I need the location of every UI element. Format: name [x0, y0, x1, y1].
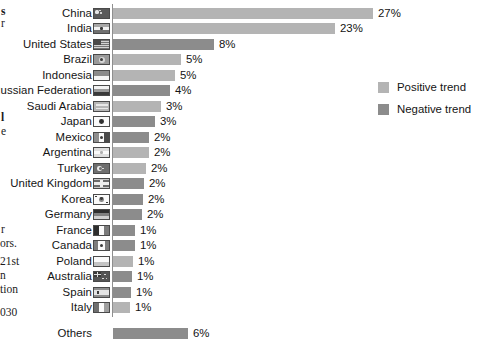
bar-category-label: Others	[58, 326, 92, 341]
bar-category-label: Poland	[56, 254, 92, 269]
bar-positive	[113, 8, 373, 19]
flag-china-icon	[93, 8, 110, 19]
bar-value-label: 1%	[140, 238, 156, 253]
bar-value-label: 8%	[219, 37, 235, 52]
bar-category-label: France	[56, 223, 92, 238]
flag-canada-icon	[93, 240, 110, 251]
flag-spain-icon	[93, 287, 110, 298]
flag-brazil-icon	[93, 54, 110, 65]
bar-value-label: 2%	[154, 130, 170, 145]
chart-row: Turkey2%	[0, 161, 491, 176]
chart-row: China27%	[0, 6, 491, 21]
bar-value-label: 27%	[378, 6, 401, 21]
legend-item: Negative trend	[378, 101, 488, 121]
bar-positive	[113, 54, 181, 65]
legend-label: Negative trend	[397, 101, 471, 118]
bar-category-label: Russian Federation	[0, 83, 92, 98]
bar-negative	[113, 328, 188, 339]
bar-value-label: 23%	[340, 21, 363, 36]
bar-value-label: 1%	[135, 300, 151, 315]
flag-poland-icon	[93, 256, 110, 267]
bar-negative	[113, 225, 135, 236]
bar-positive	[113, 101, 161, 112]
chart-row: Argentina2%	[0, 145, 491, 160]
bar-category-label: Spain	[63, 285, 92, 300]
chart-row: Spain1%	[0, 285, 491, 300]
flag-turkey-icon	[93, 163, 110, 174]
flag-australia-icon	[93, 271, 110, 282]
bar-value-label: 3%	[160, 114, 176, 129]
chart-legend: Positive trendNegative trend	[378, 79, 488, 123]
bar-value-label: 2%	[147, 207, 163, 222]
bar-category-label: Canada	[52, 238, 92, 253]
flag-japan-icon	[93, 116, 110, 127]
bar-value-label: 2%	[149, 176, 165, 191]
bar-negative	[113, 287, 131, 298]
bar-category-label: India	[67, 21, 92, 36]
flag-saudi-arabia-icon	[93, 101, 110, 112]
bar-negative	[113, 132, 149, 143]
flag-argentina-icon	[93, 147, 110, 158]
bar-positive	[113, 23, 335, 34]
bar-value-label: 1%	[140, 223, 156, 238]
bar-negative	[113, 271, 132, 282]
flag-italy-icon	[93, 302, 110, 313]
chart-row: Korea2%	[0, 192, 491, 207]
bar-positive	[113, 70, 175, 81]
chart-row: Germany2%	[0, 207, 491, 222]
bar-negative	[113, 116, 155, 127]
bar-category-label: China	[62, 6, 92, 21]
bar-category-label: United Kingdom	[10, 176, 92, 191]
bar-value-label: 5%	[186, 52, 202, 67]
bar-category-label: United States	[23, 37, 92, 52]
bar-positive	[113, 163, 146, 174]
bar-negative	[113, 194, 143, 205]
bar-value-label: 4%	[175, 83, 191, 98]
bar-category-label: Australia	[47, 269, 92, 284]
chart-row: Australia1%	[0, 269, 491, 284]
bar-category-label: Argentina	[43, 145, 92, 160]
flag-germany-icon	[93, 209, 110, 220]
bar-negative	[113, 85, 170, 96]
chart-row: Italy1%	[0, 300, 491, 315]
bar-category-label: Germany	[45, 207, 92, 222]
bar-value-label: 1%	[137, 269, 153, 284]
bar-category-label: Indonesia	[42, 68, 92, 83]
flag-france-icon	[93, 225, 110, 236]
bar-category-label: Japan	[61, 114, 92, 129]
bar-value-label: 1%	[138, 254, 154, 269]
flag-russia-icon	[93, 85, 110, 96]
flag-indonesia-icon	[93, 70, 110, 81]
bar-category-label: Italy	[71, 300, 92, 315]
chart-row: France1%	[0, 223, 491, 238]
bar-category-label: Turkey	[57, 161, 92, 176]
chart-row: Others6%	[0, 326, 491, 341]
bar-positive	[113, 147, 149, 158]
chart-row: United States8%	[0, 37, 491, 52]
bar-category-label: Brazil	[63, 52, 92, 67]
bar-positive	[113, 302, 130, 313]
document-page: srlerors.21stntion030 China27%India23%Un…	[0, 0, 491, 347]
bar-value-label: 2%	[154, 145, 170, 160]
flag-korea-icon	[93, 194, 110, 205]
bar-value-label: 3%	[166, 99, 182, 114]
horizontal-bar-chart: China27%India23%United States8%Brazil5%I…	[0, 0, 491, 347]
chart-row: Mexico2%	[0, 130, 491, 145]
bar-value-label: 2%	[148, 192, 164, 207]
legend-swatch-negative	[378, 104, 389, 115]
bar-value-label: 1%	[136, 285, 152, 300]
flag-mexico-icon	[93, 132, 110, 143]
bar-category-label: Saudi Arabia	[27, 99, 92, 114]
flag-united-kingdom-icon	[93, 178, 110, 189]
legend-item: Positive trend	[378, 79, 488, 99]
bar-value-label: 6%	[193, 326, 209, 341]
bar-category-label: Korea	[61, 192, 92, 207]
legend-swatch-positive	[378, 82, 389, 93]
bar-negative	[113, 209, 142, 220]
chart-row: Brazil5%	[0, 52, 491, 67]
bar-category-label: Mexico	[56, 130, 92, 145]
flag-india-icon	[93, 23, 110, 34]
chart-row: Poland1%	[0, 254, 491, 269]
flag-united-states-icon	[93, 39, 110, 50]
chart-row: Canada1%	[0, 238, 491, 253]
